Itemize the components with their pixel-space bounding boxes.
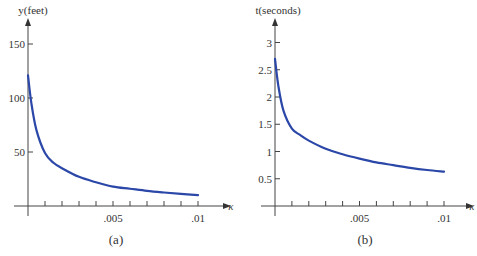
- y-tick-label: 50: [14, 146, 26, 158]
- x-tick-label: .005: [350, 212, 370, 224]
- y-tick-label: 0.5: [258, 173, 272, 185]
- y-tick-label: 2.5: [258, 64, 272, 76]
- x-axis-title: κ: [469, 200, 475, 212]
- y-axis-title: t(seconds): [255, 4, 301, 17]
- y-axis-title: y(feet): [18, 4, 48, 17]
- x-tick-label: .01: [191, 212, 205, 224]
- y-tick-label: 2: [267, 91, 273, 103]
- panel-label: (a): [109, 232, 123, 247]
- x-tick-label: .01: [437, 212, 451, 224]
- panel-label: (b): [357, 232, 372, 247]
- y-tick-label: 100: [9, 92, 26, 104]
- data-curve: [275, 59, 444, 172]
- chart-panel-b: .005.010.511.522.53t(seconds)κ(b): [255, 4, 475, 247]
- x-tick-label: .005: [103, 212, 123, 224]
- data-curve: [28, 75, 198, 195]
- y-tick-label: 1.5: [258, 118, 272, 130]
- chart-canvas: .005.0150100150y(feet)κ(a).005.010.511.5…: [0, 0, 477, 256]
- x-axis-title: κ: [228, 200, 234, 212]
- y-tick-label: 1: [267, 146, 273, 158]
- chart-panel-a: .005.0150100150y(feet)κ(a): [9, 4, 235, 247]
- y-axis-arrow-icon: [272, 18, 278, 26]
- y-tick-label: 150: [9, 38, 26, 50]
- y-axis-arrow-icon: [25, 18, 31, 26]
- y-tick-label: 3: [267, 37, 273, 49]
